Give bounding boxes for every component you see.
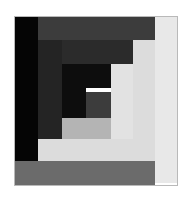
strip-right-pale-ring3 (111, 64, 133, 139)
strip-top-charcoal-ring2 (62, 40, 140, 64)
core-square-warm-gray (86, 92, 111, 118)
strip-left-black-outer (14, 16, 38, 171)
strip-bottom-light-ring2 (38, 139, 133, 161)
strip-bottom-light-mid-ring3 (62, 118, 111, 139)
strip-right-light-ring2 (133, 40, 155, 161)
artwork-canvas (0, 0, 193, 200)
strip-top-dark-gray-outer (38, 16, 155, 40)
log-cabin-composition (14, 16, 178, 186)
strip-right-light-outer (155, 16, 178, 183)
strip-bottom-mid-gray-outer (14, 161, 155, 186)
strip-top-black-ring3 (62, 64, 111, 88)
